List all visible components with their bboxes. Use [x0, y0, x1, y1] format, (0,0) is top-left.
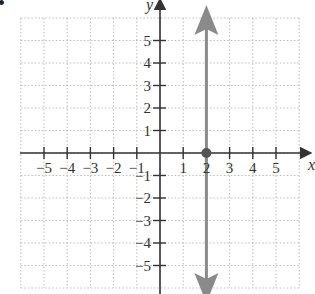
- y-tick-label: −4: [135, 235, 151, 251]
- plotted-line: [201, 20, 211, 288]
- axes: [20, 4, 306, 294]
- y-tick-label: 3: [144, 78, 152, 94]
- y-tick-label: 1: [144, 123, 152, 139]
- y-axis-label: y: [144, 0, 154, 14]
- y-tick-label: 4: [144, 55, 152, 71]
- y-tick-label: −3: [135, 213, 151, 229]
- y-tick-label: 2: [144, 100, 152, 116]
- x-tick-label: −5: [36, 160, 52, 176]
- y-tick-label: −1: [135, 168, 151, 184]
- x-axis-label: x: [307, 156, 315, 173]
- tick-labels: yx−5−4−3−2−11234554321−1−2−3−4−5: [36, 0, 315, 274]
- x-intercept-point: [201, 148, 211, 158]
- x-tick-label: 3: [226, 160, 234, 176]
- x-tick-label: −2: [106, 160, 122, 176]
- x-tick-label: 5: [272, 160, 280, 176]
- x-tick-label: −4: [59, 160, 75, 176]
- y-tick-label: 5: [144, 33, 152, 49]
- x-tick-label: 4: [249, 160, 257, 176]
- y-tick-label: −2: [135, 190, 151, 206]
- x-tick-label: −3: [82, 160, 98, 176]
- y-tick-label: −5: [135, 258, 151, 274]
- coordinate-plane-chart: yx−5−4−3−2−11234554321−1−2−3−4−5: [0, 0, 315, 294]
- x-tick-label: 2: [203, 160, 211, 176]
- x-tick-label: 1: [179, 160, 187, 176]
